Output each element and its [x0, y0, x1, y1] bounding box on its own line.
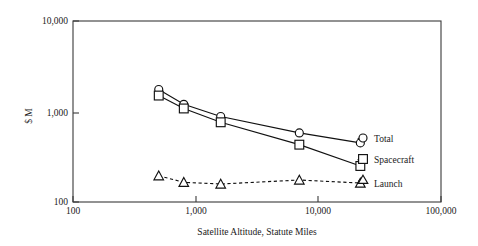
data-point-launch	[154, 171, 164, 180]
data-point-spacecraft	[216, 118, 225, 127]
x-tick-label-10000: 10,000	[305, 206, 331, 216]
series-markers-total	[155, 86, 365, 147]
data-point-spacecraft	[179, 104, 188, 113]
chart-canvas: 10,000 1,000 100 $ M 100 1,000 10,000 10…	[0, 0, 478, 246]
chart-figure: 10,000 1,000 100 $ M 100 1,000 10,000 10…	[0, 0, 478, 246]
legend-label-spacecraft: Spacecraft	[374, 155, 414, 165]
data-point-spacecraft	[295, 140, 304, 149]
legend-label-launch: Launch	[374, 179, 403, 189]
data-point-spacecraft	[154, 91, 163, 100]
data-point-launch	[295, 175, 305, 184]
series-line-launch	[159, 176, 361, 184]
x-axis-ticks	[73, 196, 441, 202]
data-point-total	[295, 129, 303, 137]
series-markers-launch	[154, 171, 365, 188]
x-tick-label-100000: 100,000	[426, 206, 457, 216]
series-line-total	[159, 90, 361, 143]
plot-frame	[73, 21, 441, 202]
legend-label-total: Total	[374, 134, 394, 144]
x-tick-label-100: 100	[66, 206, 81, 216]
y-tick-label-1000: 1,000	[47, 108, 69, 118]
y-axis-title: $ M	[24, 108, 34, 124]
legend-marker-spacecraft	[359, 155, 368, 164]
x-axis-title: Satellite Altitude, Statute Miles	[197, 227, 317, 237]
legend-marker-total	[359, 134, 367, 142]
x-tick-label-1000: 1,000	[185, 206, 207, 216]
y-axis-ticks	[73, 21, 79, 202]
y-tick-label-10000: 10,000	[42, 16, 68, 26]
